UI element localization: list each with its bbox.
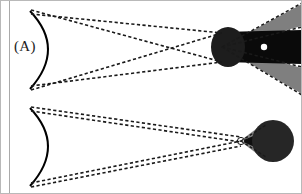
ray-lower-to-upper bbox=[31, 33, 222, 90]
ray-bundle bbox=[31, 107, 241, 187]
panel-b: (B) bbox=[0, 97, 302, 194]
panel-a: (A) bbox=[0, 0, 302, 97]
ray-upper-to-upper bbox=[31, 14, 222, 33]
ray-bundle bbox=[31, 10, 222, 90]
ray-lower-outer bbox=[31, 146, 241, 187]
panel-a-graphic bbox=[0, 0, 302, 97]
object-dark-sphere bbox=[252, 120, 294, 162]
panel-label-a: (A) bbox=[14, 38, 36, 55]
left-rule bbox=[9, 1, 10, 193]
ray-upper-to-lower bbox=[31, 10, 222, 62]
ray-lower-to-lower bbox=[31, 62, 222, 86]
ray-lower-inner bbox=[31, 141, 241, 183]
concave-mirror-arc bbox=[30, 108, 48, 186]
white-focus-dot bbox=[261, 44, 267, 50]
panel-b-graphic bbox=[0, 97, 302, 194]
optics-figure: (A) bbox=[0, 0, 302, 194]
ray-upper-inner bbox=[31, 111, 241, 142]
ray-upper-outer bbox=[31, 107, 241, 137]
